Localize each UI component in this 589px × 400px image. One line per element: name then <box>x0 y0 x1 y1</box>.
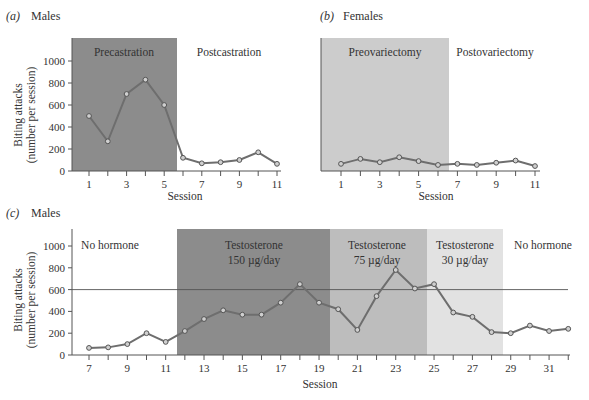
data-point <box>87 114 92 119</box>
y-tick-label: 1000 <box>43 240 66 252</box>
region-sublabel: 75 µg/day <box>354 254 401 267</box>
x-tick-label: 9 <box>493 178 499 190</box>
x-tick-label: 9 <box>237 178 243 190</box>
y-tick-label: 200 <box>49 143 66 155</box>
data-point <box>374 294 379 299</box>
x-tick-label: 3 <box>377 178 383 190</box>
x-tick-label: 9 <box>125 362 131 374</box>
x-tick-label: 27 <box>467 362 479 374</box>
x-tick-label: 11 <box>160 362 171 374</box>
data-point <box>317 300 322 305</box>
data-point <box>533 164 538 169</box>
region-label: Postcastration <box>197 46 262 58</box>
x-tick-label: 29 <box>505 362 517 374</box>
data-point <box>358 157 363 162</box>
x-tick-label: 23 <box>390 362 402 374</box>
x-tick-label: 1 <box>86 178 92 190</box>
x-tick-label: 19 <box>314 362 326 374</box>
data-point <box>256 150 261 155</box>
data-point <box>275 161 280 166</box>
y-tick-label: 800 <box>49 262 66 274</box>
chart-panel-a: PrecastrationPostcastration0200400600800… <box>43 38 282 190</box>
region-label: Preovariectomy <box>349 46 422 59</box>
region-label: Testosterone <box>436 239 494 251</box>
panel-c-xlabel: Session <box>302 378 337 390</box>
panel-a-title: Males <box>31 9 61 23</box>
data-point <box>163 340 168 345</box>
figure: (a) Males (b) Females (c) Males Biting a… <box>0 0 589 400</box>
data-point <box>416 159 421 164</box>
data-point <box>494 160 499 165</box>
data-point <box>339 161 344 166</box>
x-tick-label: 25 <box>429 362 441 374</box>
y-tick-label: 0 <box>60 165 66 177</box>
region-label: Precastration <box>94 46 154 58</box>
data-point <box>240 312 245 317</box>
x-tick-label: 11 <box>272 178 283 190</box>
chart-panel-b: PreovariectomyPostovariectomy1357911 <box>321 38 540 190</box>
y-tick-label: 0 <box>60 349 66 361</box>
data-point <box>297 282 302 287</box>
panel-a-ylabel-units: (number per session) <box>25 67 38 164</box>
data-point <box>259 312 264 317</box>
panel-c-letter: (c) <box>6 206 19 220</box>
data-point <box>474 163 479 168</box>
panel-b-xlabel: Session <box>418 190 453 202</box>
panel-b-letter: (b) <box>320 9 334 23</box>
data-point <box>199 161 204 166</box>
panel-b-title: Females <box>343 9 383 23</box>
data-point <box>412 286 417 291</box>
data-point <box>181 155 186 160</box>
data-point <box>218 160 223 165</box>
x-tick-label: 17 <box>275 362 287 374</box>
x-tick-label: 15 <box>237 362 249 374</box>
panel-c-ylabel: Biting attacks <box>12 268 25 332</box>
data-point <box>455 161 460 166</box>
data-point <box>143 77 148 82</box>
region-label: No hormone <box>81 239 139 251</box>
data-point <box>105 139 110 144</box>
data-point <box>432 282 437 287</box>
data-point <box>124 92 129 97</box>
y-tick-label: 600 <box>49 99 66 111</box>
chart-panel-c: No hormoneTestosterone150 µg/dayTestoste… <box>43 229 572 374</box>
region-label: Postovariectomy <box>456 46 534 59</box>
x-tick-label: 1 <box>338 178 344 190</box>
panel-c-ylabel-units: (number per session) <box>25 252 38 349</box>
data-point <box>125 342 130 347</box>
y-tick-label: 400 <box>49 121 66 133</box>
data-point <box>513 158 518 163</box>
x-tick-label: 31 <box>544 362 555 374</box>
panel-a-ylabel: Biting attacks <box>12 83 25 147</box>
data-point <box>221 308 226 313</box>
data-point <box>106 345 111 350</box>
data-point <box>470 314 475 319</box>
region-sublabel: 30 µg/day <box>442 254 489 267</box>
data-point <box>162 103 167 108</box>
x-tick-label: 5 <box>161 178 167 190</box>
x-tick-label: 7 <box>199 178 205 190</box>
x-tick-label: 13 <box>199 362 211 374</box>
y-tick-label: 800 <box>49 77 66 89</box>
x-tick-label: 11 <box>530 178 541 190</box>
x-tick-label: 21 <box>352 362 363 374</box>
y-tick-label: 1000 <box>43 55 66 67</box>
x-tick-label: 7 <box>455 178 461 190</box>
region-sublabel: 150 µg/day <box>228 254 281 267</box>
data-point <box>377 160 382 165</box>
data-point <box>144 331 149 336</box>
panel-a-letter: (a) <box>6 9 20 23</box>
data-point <box>508 331 513 336</box>
x-tick-label: 7 <box>86 362 92 374</box>
data-point <box>278 300 283 305</box>
data-point <box>489 330 494 335</box>
data-point <box>397 155 402 160</box>
data-point <box>547 329 552 334</box>
data-point <box>566 326 571 331</box>
plot-area: PrecastrationPostcastration0200400600800… <box>43 38 572 374</box>
y-tick-label: 200 <box>49 327 66 339</box>
panel-a-xlabel: Session <box>167 190 202 202</box>
data-point <box>237 158 242 163</box>
data-point <box>436 163 441 168</box>
region-label: Testosterone <box>225 239 283 251</box>
